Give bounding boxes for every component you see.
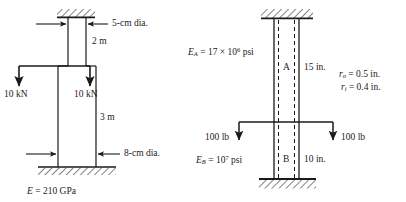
right-modulus-a-unit: psi	[240, 47, 253, 57]
right-modulus-a-value: = 17 × 10	[198, 47, 237, 57]
left-upper-column	[68, 17, 86, 66]
right-radius-outer-label: ro = 0.5 in.	[339, 70, 380, 80]
right-modulus-b-value: = 10	[206, 155, 226, 165]
left-load-right-label: 10 kN	[74, 90, 98, 100]
right-top-support	[261, 9, 313, 18]
left-load-bracket	[19, 66, 90, 86]
right-radius-inner-label: ri = 0.4 in.	[341, 83, 381, 93]
right-modulus-b-unit: psi	[229, 155, 242, 165]
right-load-bracket	[239, 122, 333, 140]
diagram-canvas: 5-cm dia. 2 m 10 kN 10 kN 3 m 8-cm dia. …	[0, 0, 406, 202]
right-load-right-label: 100 lb	[341, 133, 365, 143]
right-bottom-support	[259, 179, 316, 189]
left-upper-length-label: 2 m	[92, 37, 107, 47]
right-segment-b-length-label: 10 in.	[304, 155, 326, 165]
left-bottom-support	[38, 167, 116, 175]
right-segment-b-label: B	[283, 155, 289, 165]
right-radius-outer-value: = 0.5 in.	[346, 69, 380, 79]
left-lower-length-label: 3 m	[100, 113, 115, 123]
left-top-diameter-label: 5-cm dia.	[112, 19, 148, 29]
right-load-left-label: 100 lb	[205, 133, 229, 143]
right-radius-inner-value: = 0.4 in.	[347, 82, 381, 92]
left-bottom-diameter-label: 8-cm dia.	[124, 149, 160, 159]
diagram-svg	[0, 0, 406, 202]
right-modulus-a-label: EA = 17 × 106 psi	[188, 47, 254, 57]
left-load-left-label: 10 kN	[4, 90, 28, 100]
left-figure-group	[19, 9, 120, 175]
right-segment-a-label: A	[283, 63, 290, 73]
left-modulus-label: E = 210 GPa	[27, 187, 76, 197]
left-modulus-value: = 210 GPa	[33, 186, 76, 196]
right-modulus-b-label: EB = 107 psi	[196, 155, 242, 165]
right-segment-a-length-label: 15 in.	[304, 63, 326, 73]
left-top-support	[57, 9, 95, 17]
